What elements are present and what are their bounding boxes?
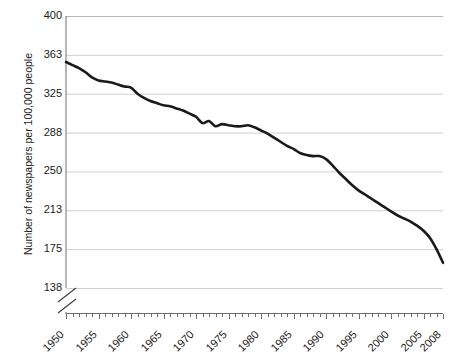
gridlines [66, 17, 443, 289]
axis-break-symbol [58, 288, 76, 313]
chart-container: Number of newspapers per 100,000 people … [0, 0, 461, 362]
data-series-line [66, 62, 443, 263]
plot-area [0, 0, 461, 362]
x-axis-ticks [67, 314, 444, 319]
axis-lines [66, 16, 443, 314]
